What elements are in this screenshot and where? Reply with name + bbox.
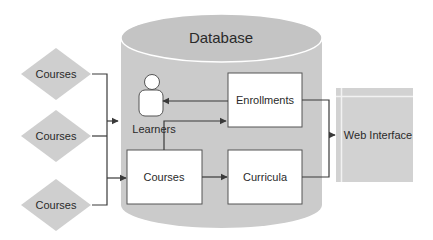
database-title: Database	[189, 30, 253, 45]
web-interface-label: Web Interface	[344, 130, 412, 141]
source-connectors	[92, 74, 126, 205]
curricula-label: Curricula	[243, 172, 287, 183]
enrollments-label: Enrollments	[236, 95, 294, 106]
courses-label: Courses	[144, 172, 185, 183]
source-label-1: Courses	[36, 69, 77, 80]
source-label-2: Courses	[36, 131, 77, 142]
learners-label: Learners	[132, 124, 175, 135]
source-label-3: Courses	[36, 200, 77, 211]
